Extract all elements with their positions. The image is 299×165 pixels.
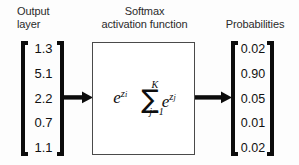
softmax-function-box: ezi ∑ K j=1 ezj	[92, 42, 195, 155]
output-vector-value: 0.90	[239, 67, 267, 81]
output-vector-value: 0.05	[239, 92, 267, 106]
input-vector-value: 0.7	[30, 116, 57, 130]
denominator-exponent-sub: j	[173, 93, 175, 102]
left-bracket-open-icon	[21, 41, 28, 156]
probabilities-caption: Probabilities	[215, 18, 295, 31]
output-vector-value: 0.02	[239, 141, 267, 155]
output-vector-value: 0.02	[239, 42, 267, 56]
numerator-exponent: zi	[121, 88, 127, 99]
summation-lower-limit: j=1	[149, 108, 164, 118]
input-vector-value: 2.2	[30, 92, 57, 106]
softmax-formula: ezi ∑ K j=1 ezj	[93, 84, 194, 113]
output-layer-caption: Output layer	[17, 5, 49, 30]
output-vector-value: 0.01	[239, 116, 267, 130]
output-vector: 0.02 0.90 0.05 0.01 0.02	[231, 41, 274, 156]
input-vector: 1.3 5.1 2.2 0.7 1.1	[21, 41, 64, 156]
fraction-denominator: ∑ K j=1 ezj	[137, 89, 179, 108]
left-bracket-open-icon	[231, 41, 238, 156]
right-bracket-close-icon	[267, 41, 274, 156]
input-vector-values: 1.3 5.1 2.2 0.7 1.1	[28, 41, 57, 156]
input-vector-value: 1.3	[30, 42, 57, 56]
denominator-exponent: zj	[169, 91, 175, 102]
softmax-caption: Softmax activation function	[92, 5, 197, 30]
summation-upper-limit: K	[151, 81, 158, 91]
fraction: ezi ∑ K j=1 ezj	[107, 84, 179, 113]
softmax-diagram: Output layer Softmax activation function…	[0, 0, 299, 165]
fraction-numerator: ezi	[107, 89, 133, 109]
input-vector-value: 5.1	[30, 67, 57, 81]
input-vector-value: 1.1	[30, 141, 57, 155]
numerator-base: e	[113, 89, 121, 108]
arrow-input-to-softmax-icon	[63, 91, 93, 104]
arrow-softmax-to-probabilities-icon	[195, 91, 232, 104]
summation-operator: ∑ K j=1	[141, 87, 159, 113]
output-vector-values: 0.02 0.90 0.05 0.01 0.02	[238, 41, 267, 156]
numerator-exponent-sub: i	[125, 90, 127, 99]
